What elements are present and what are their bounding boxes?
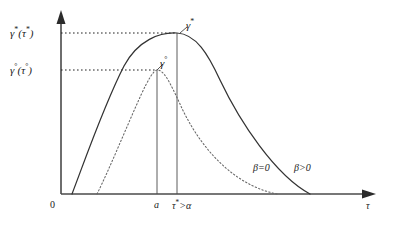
x-tick-tau-rest: >α: [179, 200, 191, 211]
y-tick-label-lower: γ°(τ°): [10, 63, 32, 76]
x-axis: [61, 190, 376, 199]
origin-label: 0: [50, 200, 55, 210]
y-tick-upper-paren-close: ): [30, 27, 34, 39]
y-tick-label-upper: γ*(τ*): [10, 26, 34, 39]
chart-canvas: [0, 0, 401, 229]
x-tick-label-tau-star: τ*>α: [172, 200, 191, 211]
x-axis-label: τ: [366, 201, 370, 211]
curve-label-gamma-star-sup: *: [190, 17, 194, 26]
legend-beta-zero: β=0: [253, 163, 270, 173]
figure-container: γ*(τ*) γ°(τ°) γ* γ° β=0 β>0 0 a τ*>α τ: [0, 0, 401, 229]
curve-label-gamma-circ: γ°: [160, 56, 168, 69]
y-tick-lower-paren-close: ): [28, 64, 32, 76]
curve-label-gamma-star: γ*: [186, 18, 194, 31]
x-tick-label-a: a: [154, 200, 159, 210]
legend-beta-positive: β>0: [294, 163, 311, 173]
curve-label-gamma-circ-sup: °: [164, 55, 167, 64]
y-axis: [57, 10, 66, 194]
curve-beta-positive: [72, 33, 310, 194]
